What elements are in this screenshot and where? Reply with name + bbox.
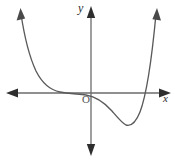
function-curve <box>21 14 156 125</box>
graph-canvas <box>0 0 175 161</box>
origin-label: O <box>82 94 90 105</box>
x-axis-left-arrow-icon <box>6 89 18 98</box>
y-axis-down-arrow-icon <box>87 144 95 156</box>
curve-right-arrow-icon <box>152 8 161 20</box>
x-axis-label: x <box>163 93 168 104</box>
function-graph-figure: y x O <box>0 0 175 161</box>
y-axis-up-arrow-icon <box>87 6 95 18</box>
y-axis-label: y <box>78 2 83 14</box>
curve-left-arrow-icon <box>17 8 26 20</box>
